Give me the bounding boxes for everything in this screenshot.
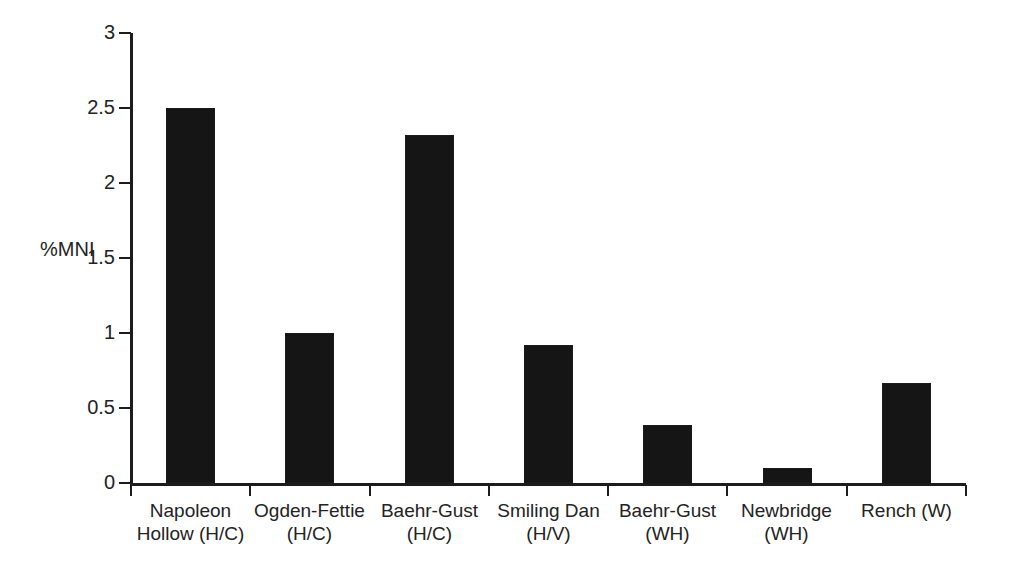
x-category-label: Baehr-Gust (H/C) [364, 499, 495, 545]
y-tick-label: 2.5 [45, 97, 115, 117]
y-tick-label-wrap: 0.5 [0, 397, 115, 417]
y-tick-mark [119, 407, 131, 409]
y-tick-mark [119, 32, 131, 34]
bar [882, 383, 931, 484]
y-tick-label-wrap: 2 [0, 172, 115, 192]
x-tick-mark [130, 485, 132, 496]
bar-chart-figure: %MNI 00.511.522.53 Napoleon Hollow (H/C)… [0, 0, 1011, 563]
x-tick-mark [846, 485, 848, 496]
bar [285, 333, 334, 483]
bar [763, 468, 812, 483]
y-tick-label-wrap: 2.5 [0, 97, 115, 117]
x-category-label: Ogden-Fettie (H/C) [244, 499, 375, 545]
y-tick-mark [119, 482, 131, 484]
y-tick-mark [119, 332, 131, 334]
x-tick-mark [726, 485, 728, 496]
y-tick-label: 0 [45, 472, 115, 492]
y-tick-label-wrap: 1.5 [0, 247, 115, 267]
bar [524, 345, 573, 483]
bar [643, 425, 692, 484]
y-tick-label: 1 [45, 322, 115, 342]
x-category-label: Smiling Dan (H/V) [483, 499, 614, 545]
x-tick-mark [965, 485, 967, 496]
x-tick-mark [249, 485, 251, 496]
bar [405, 135, 454, 483]
x-tick-mark [607, 485, 609, 496]
y-tick-mark [119, 182, 131, 184]
y-tick-label-wrap: 0 [0, 472, 115, 492]
y-tick-label-wrap: 1 [0, 322, 115, 342]
y-tick-label-wrap: 3 [0, 22, 115, 42]
x-category-label: Napoleon Hollow (H/C) [125, 499, 256, 545]
bar [166, 108, 215, 483]
y-tick-label: 1.5 [45, 247, 115, 267]
x-category-label: Newbridge (WH) [721, 499, 852, 545]
y-tick-mark [119, 107, 131, 109]
y-axis-line [130, 33, 133, 485]
y-tick-label: 0.5 [45, 397, 115, 417]
x-category-label: Baehr-Gust (WH) [602, 499, 733, 545]
y-tick-label: 3 [45, 22, 115, 42]
y-tick-label: 2 [45, 172, 115, 192]
x-tick-mark [369, 485, 371, 496]
y-tick-mark [119, 257, 131, 259]
x-axis-line [131, 483, 966, 486]
x-tick-mark [488, 485, 490, 496]
x-category-label: Rench (W) [841, 499, 972, 522]
